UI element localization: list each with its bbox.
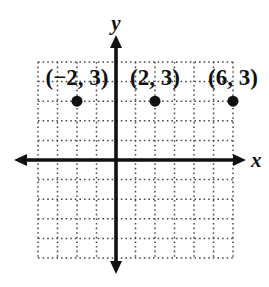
y-axis-label: y (108, 11, 121, 35)
x-axis-left-arrow-icon (14, 154, 27, 166)
point-label: (2, 3) (130, 65, 180, 90)
plotted-point (72, 96, 83, 107)
plotted-point (150, 96, 161, 107)
y-axis-top-arrow-icon (110, 35, 122, 48)
x-axis-label: x (250, 148, 262, 172)
point-label: (−2, 3) (46, 65, 109, 90)
y-axis-bottom-arrow-icon (110, 261, 122, 274)
point-label: (6, 3) (208, 65, 258, 90)
coordinate-plane-figure: xy(−2, 3)(2, 3)(6, 3) (0, 0, 269, 287)
plotted-point (228, 96, 239, 107)
x-axis-right-arrow-icon (233, 154, 246, 166)
coordinate-plane-svg: xy(−2, 3)(2, 3)(6, 3) (0, 0, 269, 287)
